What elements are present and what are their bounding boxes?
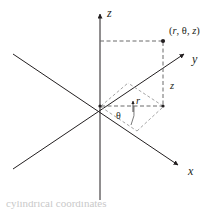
- radius-label: r: [136, 95, 141, 106]
- caption-strip: cylindrical coordinates: [0, 201, 209, 211]
- cylindrical-coordinates-figure: z y x: [0, 0, 209, 211]
- origin-marker: [98, 104, 101, 107]
- base-foot-marker: [161, 104, 164, 107]
- point-coordinate-label: (r, θ, z): [169, 25, 200, 37]
- axis-y-label: y: [191, 52, 198, 66]
- axis-x-label: x: [187, 164, 194, 178]
- plotted-point-marker: [161, 39, 165, 43]
- dashed-parallelogram-lower-right: [137, 107, 163, 131]
- axis-z-label: z: [106, 6, 112, 20]
- axis-z: z: [100, 6, 112, 200]
- axis-x: x: [13, 54, 194, 178]
- axis-x-line: [13, 54, 178, 165]
- z-height-label: z: [169, 80, 174, 91]
- point-label-paren-close: ): [196, 25, 200, 37]
- coordinate-diagram-canvas: z y x: [0, 0, 209, 211]
- theta-label: θ: [116, 110, 121, 121]
- caption-text: cylindrical coordinates: [6, 201, 107, 209]
